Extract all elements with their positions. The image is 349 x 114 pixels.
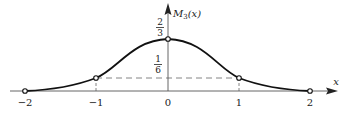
frac-one-sixth-den: 6	[155, 65, 161, 75]
point-two	[308, 89, 313, 94]
chart-canvas: −2 −1 0 1 2 x M3(x) 2 3 1 6	[0, 0, 349, 114]
tick-label-minus-one: −1	[89, 97, 104, 108]
x-axis-label: x	[333, 76, 339, 87]
point-zero-peak	[166, 37, 171, 42]
fn-name: M	[172, 8, 184, 19]
frac-two-thirds-num: 2	[157, 17, 163, 27]
tick-label-two: 2	[307, 97, 313, 108]
curve-m3	[25, 39, 310, 91]
point-one	[237, 76, 242, 81]
point-minus-one	[94, 76, 99, 81]
fn-argument: (x)	[188, 8, 202, 19]
y-axis-label: M3(x)	[172, 8, 201, 21]
frac-two-thirds-den: 3	[157, 28, 163, 38]
point-minus-two	[23, 89, 28, 94]
frac-one-sixth-num: 1	[155, 54, 161, 64]
tick-label-one: 1	[236, 97, 242, 108]
tick-label-zero: 0	[165, 97, 171, 108]
tick-label-minus-two: −2	[18, 97, 33, 108]
